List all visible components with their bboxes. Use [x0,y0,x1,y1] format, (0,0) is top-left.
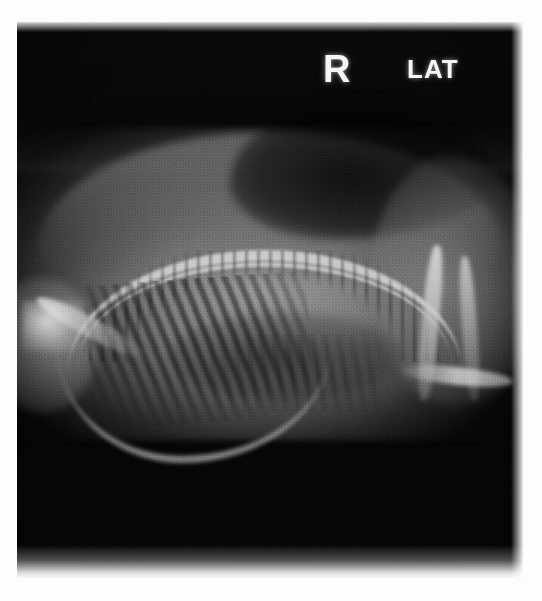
side-marker-right: R [323,50,351,88]
film-vignette [17,22,523,579]
view-marker-lateral: LAT [407,56,459,82]
cropped-caption-strip [0,592,542,601]
lateral-radiograph[interactable] [17,22,523,579]
page-canvas: R LAT [0,0,542,601]
